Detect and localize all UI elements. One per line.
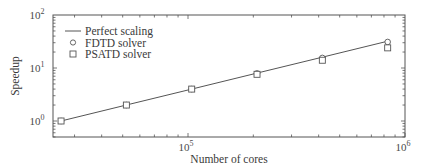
legend-item: PSATD solver (70, 48, 151, 60)
circle-marker (385, 39, 391, 45)
y-tick-label: 101 (30, 60, 45, 74)
x-tick-label: 106 (396, 139, 411, 153)
speedup-chart: 105106100101102 Perfect scalingFDTD solv… (0, 0, 428, 168)
square-marker (189, 86, 195, 92)
legend-item: FDTD solver (70, 37, 146, 49)
square-marker (319, 57, 325, 63)
y-tick-label: 102 (30, 7, 45, 21)
square-marker (385, 45, 391, 51)
x-axis-label: Number of cores (190, 153, 268, 165)
y-tick-label: 100 (30, 113, 45, 127)
x-tick-label: 105 (179, 139, 194, 153)
circle-swatch-icon (70, 40, 75, 45)
square-marker (58, 118, 64, 124)
y-axis-label: Speedup (9, 56, 22, 96)
square-marker (254, 71, 260, 77)
legend: Perfect scalingFDTD solverPSATD solver (65, 25, 153, 60)
square-swatch-icon (70, 51, 76, 57)
legend-label: PSATD solver (85, 48, 151, 60)
legend-label: FDTD solver (85, 37, 146, 49)
square-marker (123, 102, 129, 108)
